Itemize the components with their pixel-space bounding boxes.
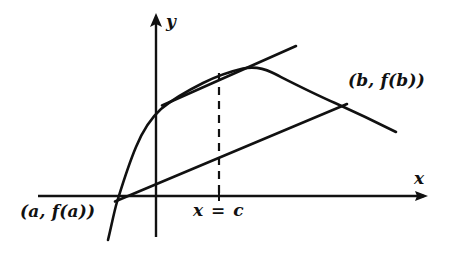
mvt-figure: y x (a, f(a)) (b, f(b)) x = c <box>0 0 451 253</box>
x-equals-c-label: x = c <box>193 202 245 219</box>
point-a-label: (a, f(a)) <box>20 203 95 220</box>
function-curve <box>108 68 396 240</box>
secant-line <box>115 104 347 202</box>
x-axis-label: x <box>414 170 424 187</box>
point-b-label: (b, f(b)) <box>348 72 425 89</box>
y-axis-label: y <box>166 13 176 30</box>
y-axis <box>150 13 162 237</box>
